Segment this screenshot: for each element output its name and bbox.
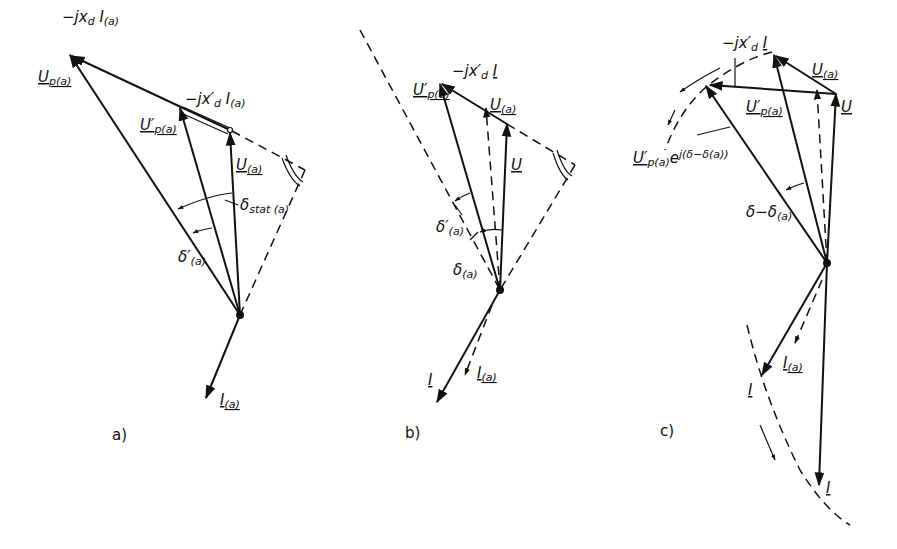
- vector-i-bottom-c: [819, 263, 827, 485]
- label-up-rot-c: U′p(a)ej(δ−δ(a)): [633, 148, 729, 169]
- label-u-a-c: U(a): [812, 61, 838, 81]
- caption-a: a): [112, 426, 127, 444]
- panel-b: U′p(a) −jx′d I U(a) U δ′(a) δ(a) I I(a) …: [360, 30, 575, 442]
- label-up: Up(a): [38, 68, 71, 88]
- label-delta-prime: δ′(a): [178, 248, 206, 268]
- vector-i-a: [206, 315, 240, 398]
- label-i-a-c: I(a): [783, 354, 803, 374]
- phasor-diagram: −jxd I(a) Up(a) −jx′d I(a) U′p(a) U(a) δ…: [0, 0, 897, 549]
- label-jxd-i: −jxd I(a): [62, 8, 119, 28]
- label-i-b: I: [428, 371, 433, 389]
- label-u-c: U: [841, 98, 852, 116]
- label-u-a: U(a): [236, 156, 262, 176]
- dashed-arc-lower: [747, 325, 850, 525]
- vector-up-prime-c: [774, 55, 827, 263]
- vector-i-mid-c: [762, 263, 827, 375]
- label-up-prime-c: U′p(a): [746, 98, 783, 118]
- label-up-prime: U′p(a): [140, 116, 177, 136]
- vector-u-b: [500, 124, 507, 290]
- label-jxd-prime-i-b: −jx′d I: [452, 62, 498, 82]
- label-delta-stat: δstat (a): [240, 196, 289, 216]
- label-jxd-prime-i: −jx′d I(a): [185, 90, 246, 110]
- vector-u-a-c: [817, 90, 827, 263]
- label-i-a: I(a): [220, 391, 240, 411]
- label-delta-b: δ(a): [453, 261, 478, 281]
- label-jxd-prime-i-c: −jx′d I: [722, 34, 768, 54]
- label-u-b: U: [511, 156, 522, 174]
- caption-b: b): [405, 424, 420, 442]
- panel-c: −jx′d I U(a) U U′p(a) U′p(a)ej(δ−δ(a)) δ…: [633, 34, 852, 525]
- caption-c: c): [660, 422, 674, 440]
- label-delta-diff-c: δ−δ(a): [746, 203, 792, 223]
- panel-a: −jxd I(a) Up(a) −jx′d I(a) U′p(a) U(a) δ…: [38, 8, 305, 444]
- arc-delta-prime: [193, 228, 212, 233]
- label-u-a-b: U(a): [490, 96, 516, 116]
- vector-jxd-prime-i-c: [710, 85, 836, 94]
- label-i-mid-c: I: [748, 381, 753, 399]
- label-delta-prime-b: δ′(a): [436, 218, 464, 238]
- label-i-a-b: I(a): [477, 364, 497, 384]
- vector-u-c: [827, 94, 836, 263]
- label-up-prime-b: U′p(a): [413, 81, 450, 101]
- label-i-bottom-c: I: [826, 479, 831, 497]
